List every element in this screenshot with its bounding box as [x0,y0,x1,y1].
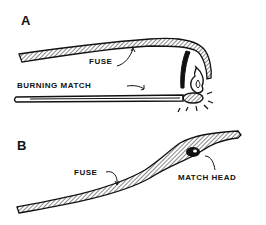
panel-a-fuse-leader [117,49,133,66]
panel-b-matchhead-leader [205,156,215,170]
panel-b-letter: B [17,138,27,153]
panel-b-match-head-label: MATCH HEAD [178,173,236,182]
panel-a-match-leader [127,86,144,89]
flame-icon [191,67,203,93]
panel-a-burning-match-label: BURNING MATCH [17,81,91,90]
panel-b-fuse [17,131,241,213]
panel-b-fuse-label: FUSE [74,168,97,177]
diagram-canvas [0,0,266,225]
panel-a-letter: A [21,13,31,28]
panel-a-fuse-label: FUSE [89,57,112,66]
burning-match [15,93,204,103]
